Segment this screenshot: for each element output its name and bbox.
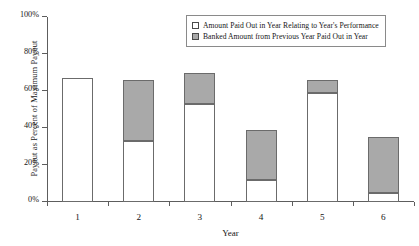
y-axis-tick-label: 0%: [28, 195, 39, 204]
x-axis-title: Year: [47, 228, 414, 238]
x-axis-tick-label: 3: [188, 212, 212, 222]
bar-group: [123, 17, 154, 202]
y-axis-tick: 40%: [42, 127, 47, 128]
chart-legend: Amount Paid Out in Year Relating to Year…: [186, 15, 386, 47]
bar-segment-banked: [307, 80, 338, 93]
x-axis-tick-label: 5: [310, 212, 334, 222]
legend-item: Amount Paid Out in Year Relating to Year…: [192, 20, 379, 31]
y-axis-tick-label: 40%: [24, 121, 39, 130]
x-axis-tick: [414, 202, 415, 206]
legend-swatch-paid-out-icon: [192, 22, 199, 29]
legend-item-label: Amount Paid Out in Year Relating to Year…: [203, 21, 379, 30]
y-axis-tick: 100%: [42, 16, 47, 17]
bar-segment-banked: [184, 73, 215, 104]
y-axis-tick: 60%: [42, 90, 47, 91]
bar-segment-paid-out: [62, 78, 93, 202]
y-axis-tick: 20%: [42, 164, 47, 165]
y-axis-tick-label: 100%: [20, 10, 39, 19]
legend-item: Banked Amount from Previous Year Paid Ou…: [192, 31, 379, 42]
x-axis-tick: [47, 202, 48, 206]
y-axis-title: Payout as Percent of Maximum Payout: [30, 14, 39, 204]
y-axis-tick: 80%: [42, 53, 47, 54]
x-axis-tick-label: 1: [66, 212, 90, 222]
bar-segment-paid-out: [368, 193, 399, 202]
x-axis-tick-label: 6: [371, 212, 395, 222]
bar-segment-banked: [246, 130, 277, 180]
x-axis-tick: [169, 202, 170, 206]
x-axis-tick: [108, 202, 109, 206]
x-axis-tick-label: 2: [127, 212, 151, 222]
bar-segment-paid-out: [307, 93, 338, 202]
bar-segment-paid-out: [246, 180, 277, 202]
bar-chart: Payout as Percent of Maximum Payout 0%20…: [0, 0, 419, 246]
x-axis-tick: [292, 202, 293, 206]
x-axis-tick: [353, 202, 354, 206]
bar-segment-paid-out: [123, 141, 154, 202]
legend-item-label: Banked Amount from Previous Year Paid Ou…: [203, 32, 368, 41]
bar-group: [62, 17, 93, 202]
y-axis-tick-label: 20%: [24, 158, 39, 167]
bar-segment-paid-out: [184, 104, 215, 202]
bar-segment-banked: [368, 137, 399, 193]
y-axis-line: [47, 17, 48, 202]
legend-swatch-banked-icon: [192, 33, 199, 40]
x-axis-tick-label: 4: [249, 212, 273, 222]
bar-segment-banked: [123, 80, 154, 141]
y-axis-tick-label: 80%: [24, 47, 39, 56]
y-axis-tick-label: 60%: [24, 84, 39, 93]
x-axis-tick: [231, 202, 232, 206]
